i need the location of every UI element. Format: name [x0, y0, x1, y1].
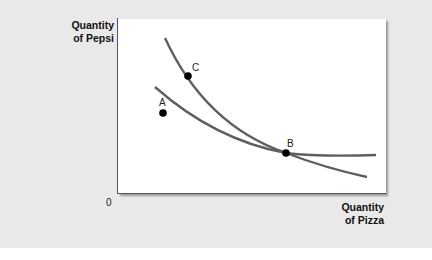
point-c-label: C [192, 62, 199, 73]
point-b-label: B [287, 138, 294, 149]
y-axis-label-line1: Quantity [71, 19, 114, 32]
y-axis-label: Quantity of Pepsi [71, 19, 114, 45]
point-a-label: A [159, 97, 166, 108]
y-axis-label-line2: of Pepsi [71, 32, 114, 45]
x-axis-label-line2: of Pizza [341, 214, 384, 227]
origin-label: 0 [106, 197, 112, 208]
x-axis-label: Quantity of Pizza [341, 201, 384, 227]
x-axis-label-line1: Quantity [341, 201, 384, 214]
point-c-marker [184, 72, 192, 80]
point-b-marker [282, 149, 290, 157]
point-a-marker [159, 109, 167, 117]
